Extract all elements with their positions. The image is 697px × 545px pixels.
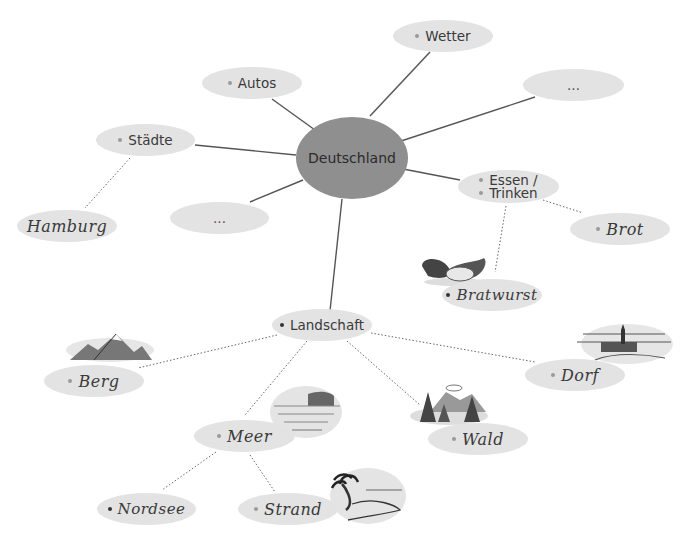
forest-illustration xyxy=(408,382,490,426)
bullet-icon xyxy=(551,373,555,377)
bullet-icon xyxy=(254,507,258,511)
node-landschaft: Landschaft xyxy=(272,309,372,341)
node-wald: Wald xyxy=(428,423,528,455)
node-label: Landschaft xyxy=(290,317,364,333)
bullet-icon xyxy=(118,138,122,142)
bullet-icon xyxy=(596,227,600,231)
node-hamburg: Hamburg xyxy=(17,210,117,242)
bullet-icon xyxy=(446,293,450,297)
bullet-icon xyxy=(68,379,72,383)
bullet-icon xyxy=(280,323,284,327)
bullet-icon xyxy=(479,191,483,195)
node-label: Strand xyxy=(264,500,322,519)
node-label: Nordsee xyxy=(118,500,186,518)
bullet-icon xyxy=(415,34,419,38)
beach-palm-illustration xyxy=(326,466,406,526)
node-label: Autos xyxy=(238,75,276,91)
node-nordsee: Nordsee xyxy=(97,493,196,525)
node-label: Hamburg xyxy=(27,219,108,234)
node-label: ... xyxy=(213,211,226,226)
node-dorf: Dorf xyxy=(525,359,625,391)
node-strand: Strand xyxy=(238,493,338,525)
node-brot: Brot xyxy=(570,213,670,245)
node-label: Berg xyxy=(78,372,119,391)
node-label-line2: Trinken xyxy=(489,185,537,201)
node-label: Städte xyxy=(128,132,172,148)
node-staedte: Städte xyxy=(96,124,195,156)
node-label: Brot xyxy=(606,220,643,239)
mountain-illustration xyxy=(64,332,156,364)
node-autos: Autos xyxy=(202,67,302,99)
node-label: Dorf xyxy=(561,366,599,385)
bullet-icon xyxy=(108,507,112,511)
bullet-icon xyxy=(217,434,221,438)
node-empty-right: ... xyxy=(523,69,624,101)
node-label: Wald xyxy=(462,430,504,449)
node-berg: Berg xyxy=(44,365,144,397)
node-label: Deutschland xyxy=(308,151,396,166)
bullet-icon xyxy=(228,81,232,85)
node-label: ... xyxy=(567,78,580,93)
node-label: Meer xyxy=(227,427,272,446)
node-bratwurst: Bratwurst xyxy=(442,279,542,311)
node-label: Bratwurst xyxy=(456,286,537,304)
node-deutschland: Deutschland xyxy=(296,117,408,199)
node-empty-left: ... xyxy=(170,202,269,234)
node-meer: Meer xyxy=(194,420,295,452)
bullet-icon xyxy=(479,178,483,182)
node-wetter: Wetter xyxy=(393,20,493,52)
node-label: Wetter xyxy=(425,28,470,44)
node-essen-trinken: Essen / Trinken xyxy=(458,170,559,203)
bullet-icon xyxy=(452,437,456,441)
